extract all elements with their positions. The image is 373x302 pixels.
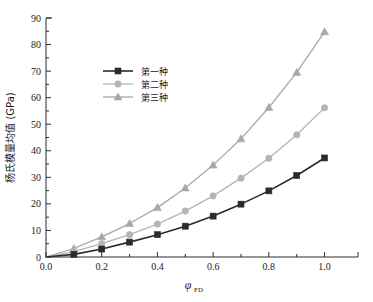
x-tick-label: 0.2 xyxy=(95,261,108,272)
data-point-marker xyxy=(182,208,188,214)
chart-figure: 01020304050607080900.00.20.40.60.81.0 第一… xyxy=(0,0,373,302)
x-axis-title-symbol: φ xyxy=(185,278,192,292)
data-point-marker xyxy=(238,175,244,181)
young-modulus-line-chart: 01020304050607080900.00.20.40.60.81.0 第一… xyxy=(0,0,373,302)
y-tick-label: 50 xyxy=(31,119,41,130)
y-tick-label: 40 xyxy=(31,145,41,156)
x-tick-label: 0.6 xyxy=(207,261,220,272)
data-point-marker xyxy=(182,223,188,229)
y-tick-label: 60 xyxy=(31,92,41,103)
data-point-marker xyxy=(322,155,328,161)
x-tick-label: 0.8 xyxy=(263,261,276,272)
data-point-marker xyxy=(71,251,77,257)
x-axis-title-subscript: FD xyxy=(194,286,203,294)
data-point-marker xyxy=(210,193,216,199)
data-point-marker xyxy=(321,105,327,111)
y-tick-label: 80 xyxy=(31,39,41,50)
y-tick-label: 30 xyxy=(31,172,41,183)
data-point-marker xyxy=(115,81,121,87)
y-axis-title: 杨氏模量均值 (GPa) xyxy=(4,92,16,183)
data-point-marker xyxy=(126,231,132,237)
data-point-marker xyxy=(266,188,272,194)
data-point-marker xyxy=(210,213,216,219)
legend-label: 第一种 xyxy=(141,66,168,77)
data-point-marker xyxy=(266,155,272,161)
data-point-marker xyxy=(238,201,244,207)
data-point-marker xyxy=(154,221,160,227)
data-point-marker xyxy=(99,246,105,252)
y-tick-label: 20 xyxy=(31,198,41,209)
x-tick-label: 0.4 xyxy=(151,261,164,272)
legend-label: 第三种 xyxy=(141,92,168,103)
y-tick-label: 70 xyxy=(31,66,41,77)
x-tick-label: 0.0 xyxy=(40,261,53,272)
legend-label: 第二种 xyxy=(141,79,168,90)
data-point-marker xyxy=(154,232,160,238)
x-tick-label: 1.0 xyxy=(318,261,331,272)
data-point-marker xyxy=(294,172,300,178)
data-point-marker xyxy=(127,239,133,245)
y-tick-label: 10 xyxy=(31,225,41,236)
data-point-marker xyxy=(294,132,300,138)
y-tick-label: 90 xyxy=(31,13,41,24)
data-point-marker xyxy=(115,68,121,74)
